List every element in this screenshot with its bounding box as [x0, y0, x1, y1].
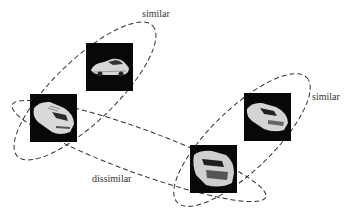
car-icon [86, 43, 133, 91]
similar-label-right: similar [312, 91, 340, 102]
car-image-4 [190, 145, 237, 193]
car-image-3 [244, 93, 291, 141]
car-image-1 [86, 43, 133, 91]
similar-label-top: similar [142, 8, 170, 19]
car-image-2 [30, 94, 77, 142]
similar-ellipse-right [156, 55, 329, 219]
dissimilar-label: dissimilar [92, 173, 131, 184]
similar-ellipse-left [0, 3, 174, 178]
car-icon [30, 94, 77, 142]
similarity-diagram: similar similar dissimilar [0, 0, 350, 219]
car-icon [190, 145, 237, 193]
car-icon [244, 93, 291, 141]
